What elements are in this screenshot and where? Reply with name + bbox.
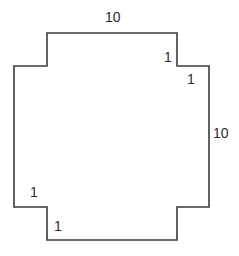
label-bottom-left-step-horizontal: 1 <box>54 218 62 234</box>
label-right-length: 10 <box>213 125 229 141</box>
label-top-right-step-horizontal: 1 <box>187 71 195 87</box>
label-bottom-left-step-vertical: 1 <box>30 184 38 200</box>
label-top-right-step-vertical: 1 <box>164 49 172 65</box>
label-top-length: 10 <box>105 9 121 25</box>
stepped-shape-diagram: 10 10 1 1 1 1 <box>0 0 239 256</box>
shape-outline <box>14 33 209 240</box>
